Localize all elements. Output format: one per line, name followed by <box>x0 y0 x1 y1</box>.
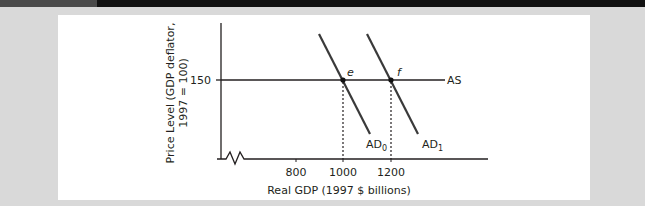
point-e-label: e <box>347 66 354 79</box>
y-axis-title-line1: Price Level (GDP deflator, <box>164 23 177 164</box>
x-axis <box>217 152 488 164</box>
ad-as-chart: e f AS AD0 AD1 150 800 1000 1200 Real GD… <box>0 0 645 206</box>
ad1-subscript: 1 <box>438 144 443 153</box>
x-tick-label-800: 800 <box>286 166 307 179</box>
as-label: AS <box>447 74 462 87</box>
point-f-label: f <box>397 66 403 79</box>
ad1-label: AD1 <box>422 138 443 153</box>
x-axis-title: Real GDP (1997 $ billions) <box>267 184 411 197</box>
ad0-curve <box>319 34 370 134</box>
x-tick-label-1200: 1200 <box>377 166 405 179</box>
ad1-curve <box>367 34 418 134</box>
y-tick-label-150: 150 <box>190 74 211 87</box>
x-tick-label-1000: 1000 <box>329 166 357 179</box>
point-e <box>340 77 345 82</box>
y-axis-title-line2: 1997 = 100) <box>177 58 190 128</box>
point-f <box>388 77 393 82</box>
ad0-label: AD0 <box>366 138 387 153</box>
ad0-subscript: 0 <box>382 144 387 153</box>
